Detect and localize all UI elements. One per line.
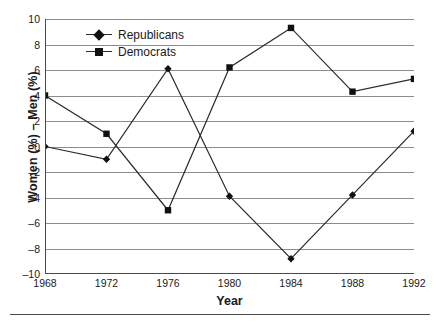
data-point-democrats-1988 bbox=[349, 88, 355, 94]
y-tick-label: –6 bbox=[14, 218, 40, 228]
data-point-democrats-1976 bbox=[165, 207, 171, 213]
y-tick-label: –8 bbox=[14, 244, 40, 254]
y-tick-label: –2 bbox=[14, 167, 40, 177]
y-tick-label: –4 bbox=[14, 193, 40, 203]
y-tick-label: 10 bbox=[14, 14, 40, 24]
series-line-republicans bbox=[45, 69, 414, 259]
data-point-democrats-1980 bbox=[226, 64, 232, 70]
legend-label: Republicans bbox=[118, 28, 184, 42]
chart-legend: RepublicansDemocrats bbox=[86, 27, 184, 59]
x-tick-label: 1980 bbox=[210, 278, 250, 289]
legend-label: Democrats bbox=[118, 45, 176, 59]
legend-item-republicans: Republicans bbox=[86, 27, 184, 42]
x-tick-label: 1968 bbox=[25, 278, 65, 289]
data-series-layer bbox=[45, 25, 414, 263]
data-point-democrats-1984 bbox=[288, 25, 294, 31]
y-tick-label: 8 bbox=[14, 40, 40, 50]
data-point-republicans-1976 bbox=[164, 65, 171, 72]
y-tick-label: 2 bbox=[14, 116, 40, 126]
bottom-divider bbox=[10, 314, 430, 315]
data-point-democrats-1972 bbox=[103, 131, 109, 137]
x-tick-label: 1976 bbox=[148, 278, 188, 289]
square-marker-icon bbox=[86, 45, 112, 59]
x-axis-title: Year bbox=[45, 294, 414, 308]
y-tick-label: 0 bbox=[14, 142, 40, 152]
data-point-republicans-1972 bbox=[103, 156, 110, 163]
y-tick-label: 4 bbox=[14, 91, 40, 101]
legend-item-democrats: Democrats bbox=[86, 44, 184, 59]
y-tick-label: 6 bbox=[14, 65, 40, 75]
x-tick-label: 1972 bbox=[87, 278, 127, 289]
data-point-democrats-1992 bbox=[411, 76, 414, 82]
chart-figure: Women (%) – Men (%) 1086420–2–4–6–8–10 1… bbox=[0, 0, 440, 325]
x-tick-label: 1992 bbox=[394, 278, 434, 289]
x-tick-label: 1984 bbox=[271, 278, 311, 289]
x-tick-label: 1988 bbox=[333, 278, 373, 289]
diamond-marker-icon bbox=[86, 28, 112, 42]
